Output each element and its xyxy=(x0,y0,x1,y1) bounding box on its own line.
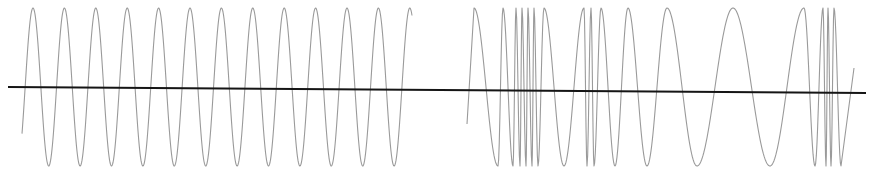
baseline-axis xyxy=(8,87,866,93)
waveform-diagram xyxy=(0,0,873,194)
irregular-waveform xyxy=(467,8,854,166)
